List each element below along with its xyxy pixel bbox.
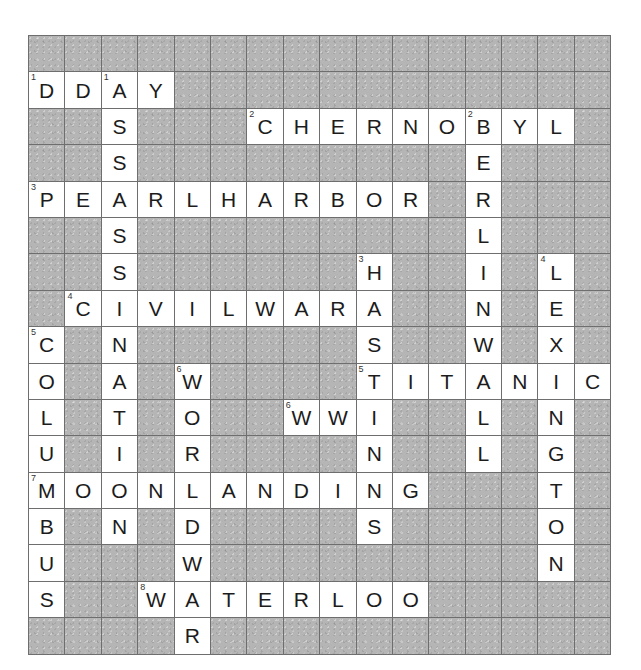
crossword-cell-filled[interactable]: B <box>320 182 356 218</box>
crossword-cell-filled[interactable]: L <box>175 182 211 218</box>
crossword-cell-filled[interactable]: G <box>538 436 574 472</box>
crossword-cell-filled[interactable]: I <box>466 254 502 290</box>
crossword-cell-filled[interactable]: N <box>102 327 138 363</box>
crossword-cell-filled[interactable]: L <box>466 218 502 254</box>
crossword-cell-filled[interactable]: A <box>175 582 211 618</box>
crossword-cell-filled[interactable]: N <box>502 364 538 400</box>
crossword-cell-filled[interactable]: N <box>102 509 138 545</box>
crossword-cell-filled[interactable]: S <box>102 109 138 145</box>
crossword-cell-filled[interactable]: E <box>65 182 101 218</box>
crossword-cell-filled[interactable]: 5T <box>357 364 393 400</box>
crossword-cell-filled[interactable]: O <box>357 182 393 218</box>
crossword-cell-filled[interactable]: O <box>538 509 574 545</box>
crossword-cell-filled[interactable]: W <box>247 291 283 327</box>
crossword-cell-filled[interactable]: I <box>320 473 356 509</box>
crossword-cell-filled[interactable]: I <box>538 364 574 400</box>
crossword-cell-filled[interactable]: R <box>357 109 393 145</box>
crossword-cell-filled[interactable]: 4L <box>538 254 574 290</box>
crossword-cell-filled[interactable]: R <box>320 291 356 327</box>
crossword-cell-filled[interactable]: L <box>211 291 247 327</box>
crossword-cell-filled[interactable]: R <box>175 436 211 472</box>
crossword-cell-filled[interactable]: E <box>466 145 502 181</box>
crossword-cell-filled[interactable]: R <box>393 182 429 218</box>
crossword-cell-filled[interactable]: R <box>466 182 502 218</box>
crossword-cell-filled[interactable]: S <box>357 509 393 545</box>
crossword-cell-filled[interactable]: N <box>357 473 393 509</box>
crossword-cell-filled[interactable]: C <box>575 364 611 400</box>
crossword-cell-filled[interactable]: S <box>357 327 393 363</box>
crossword-cell-filled[interactable]: 3H <box>357 254 393 290</box>
crossword-cell-filled[interactable]: L <box>538 109 574 145</box>
crossword-cell-filled[interactable]: O <box>29 364 65 400</box>
crossword-cell-filled[interactable]: T <box>538 473 574 509</box>
crossword-cell-filled[interactable]: I <box>357 400 393 436</box>
crossword-cell-filled[interactable]: S <box>102 218 138 254</box>
crossword-cell-filled[interactable]: H <box>284 109 320 145</box>
crossword-cell-filled[interactable]: Y <box>502 109 538 145</box>
crossword-cell-filled[interactable]: 2B <box>466 109 502 145</box>
crossword-cell-filled[interactable]: A <box>357 291 393 327</box>
crossword-cell-filled[interactable]: O <box>357 582 393 618</box>
crossword-cell-filled[interactable]: E <box>247 582 283 618</box>
crossword-cell-filled[interactable]: D <box>65 72 101 108</box>
crossword-cell-filled[interactable]: 3P <box>29 182 65 218</box>
crossword-cell-filled[interactable]: A <box>102 182 138 218</box>
crossword-cell-filled[interactable]: L <box>466 436 502 472</box>
crossword-cell-filled[interactable]: I <box>102 436 138 472</box>
crossword-cell-filled[interactable]: I <box>102 291 138 327</box>
crossword-cell-filled[interactable]: A <box>102 364 138 400</box>
crossword-cell-filled[interactable]: D <box>284 473 320 509</box>
crossword-cell-filled[interactable]: N <box>538 400 574 436</box>
crossword-cell-filled[interactable]: 2C <box>247 109 283 145</box>
crossword-cell-filled[interactable]: X <box>538 327 574 363</box>
crossword-cell-filled[interactable]: O <box>102 473 138 509</box>
crossword-cell-filled[interactable]: E <box>320 109 356 145</box>
crossword-cell-filled[interactable]: D <box>175 509 211 545</box>
crossword-cell-filled[interactable]: I <box>175 291 211 327</box>
crossword-cell-filled[interactable]: L <box>175 473 211 509</box>
crossword-cell-filled[interactable]: T <box>211 582 247 618</box>
crossword-cell-filled[interactable]: Y <box>138 72 174 108</box>
crossword-cell-filled[interactable]: 1A <box>102 72 138 108</box>
crossword-cell-filled[interactable]: N <box>138 473 174 509</box>
crossword-grid[interactable]: 1DD1AYS2CHERNO2BYLSE3PEARLHARBORRSLS3HI4… <box>28 35 611 655</box>
crossword-cell-filled[interactable]: N <box>538 545 574 581</box>
crossword-cell-filled[interactable]: R <box>284 582 320 618</box>
crossword-cell-filled[interactable]: T <box>429 364 465 400</box>
crossword-cell-filled[interactable]: 6W <box>175 364 211 400</box>
crossword-cell-filled[interactable]: R <box>138 182 174 218</box>
crossword-cell-filled[interactable]: O <box>65 473 101 509</box>
crossword-cell-filled[interactable]: S <box>29 582 65 618</box>
crossword-cell-filled[interactable]: N <box>357 436 393 472</box>
crossword-cell-filled[interactable]: 8W <box>138 582 174 618</box>
crossword-cell-filled[interactable]: L <box>29 400 65 436</box>
crossword-cell-filled[interactable]: U <box>29 436 65 472</box>
crossword-cell-filled[interactable]: W <box>175 545 211 581</box>
crossword-cell-filled[interactable]: B <box>29 509 65 545</box>
crossword-cell-filled[interactable]: A <box>466 364 502 400</box>
crossword-cell-filled[interactable]: R <box>175 618 211 654</box>
crossword-cell-filled[interactable]: O <box>429 109 465 145</box>
crossword-cell-filled[interactable]: N <box>393 109 429 145</box>
crossword-cell-filled[interactable]: I <box>393 364 429 400</box>
crossword-cell-filled[interactable]: H <box>211 182 247 218</box>
crossword-cell-filled[interactable]: U <box>29 545 65 581</box>
crossword-cell-filled[interactable]: R <box>284 182 320 218</box>
crossword-cell-filled[interactable]: S <box>102 145 138 181</box>
crossword-cell-filled[interactable]: A <box>284 291 320 327</box>
crossword-cell-filled[interactable]: 6W <box>284 400 320 436</box>
crossword-cell-filled[interactable]: N <box>247 473 283 509</box>
crossword-cell-filled[interactable]: 7M <box>29 473 65 509</box>
crossword-cell-filled[interactable]: O <box>175 400 211 436</box>
crossword-cell-filled[interactable]: N <box>466 291 502 327</box>
crossword-cell-filled[interactable]: E <box>538 291 574 327</box>
crossword-cell-filled[interactable]: L <box>466 400 502 436</box>
crossword-cell-filled[interactable]: A <box>247 182 283 218</box>
crossword-cell-filled[interactable]: L <box>320 582 356 618</box>
crossword-cell-filled[interactable]: T <box>102 400 138 436</box>
crossword-cell-filled[interactable]: 5C <box>29 327 65 363</box>
crossword-cell-filled[interactable]: S <box>102 254 138 290</box>
crossword-cell-filled[interactable]: V <box>138 291 174 327</box>
crossword-cell-filled[interactable]: G <box>393 473 429 509</box>
crossword-cell-filled[interactable]: 1D <box>29 72 65 108</box>
